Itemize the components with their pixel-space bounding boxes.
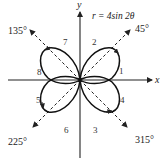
segment-label-4: 4 [120,95,125,105]
segment-label-3: 3 [93,125,98,135]
equation-label: r = 4sin 2θ [92,11,135,21]
y-axis-label: y [76,0,82,10]
x-axis-label: x [154,74,160,85]
angle-label-315: 315° [135,134,154,145]
segment-label-2: 2 [92,37,97,47]
rose-curve-diagram: x y r = 4sin 2θ 45° 135° 225° 315° 1 2 3… [0,0,163,159]
segment-label-8: 8 [37,67,42,77]
segment-label-7: 7 [63,37,68,47]
segment-label-6: 6 [64,125,69,135]
angle-label-135: 135° [8,25,27,36]
angle-label-45: 45° [135,23,149,34]
angle-label-225: 225° [8,136,27,147]
segment-label-1: 1 [119,66,124,76]
segment-label-5: 5 [36,95,41,105]
